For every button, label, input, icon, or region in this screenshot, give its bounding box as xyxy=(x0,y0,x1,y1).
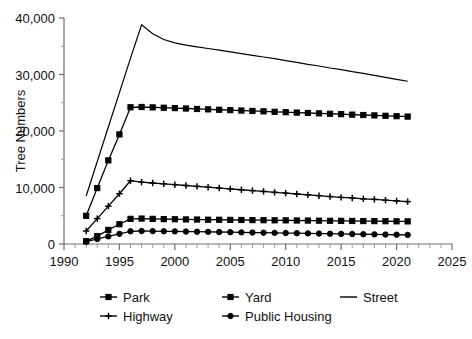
data-point xyxy=(183,217,188,222)
data-point xyxy=(272,109,277,114)
x-tick-label: 2025 xyxy=(438,254,467,269)
data-point xyxy=(106,234,111,239)
data-point xyxy=(327,111,332,116)
x-tick-label: 2020 xyxy=(382,254,411,269)
x-tick-label: 1995 xyxy=(105,254,134,269)
y-tick-label: 0 xyxy=(48,237,55,252)
legend-marker xyxy=(228,294,233,299)
data-point xyxy=(239,230,244,235)
y-axis-label: Tree Numbers xyxy=(13,89,28,172)
data-point xyxy=(128,229,133,234)
data-point xyxy=(106,158,111,163)
data-point xyxy=(294,231,299,236)
data-point xyxy=(117,231,122,236)
data-point xyxy=(305,231,310,236)
data-point xyxy=(83,239,88,244)
data-point xyxy=(272,218,277,223)
line-chart: 010,00020,00030,00040,000 19901995200020… xyxy=(0,0,472,339)
data-point xyxy=(350,112,355,117)
y-tick-label: 30,000 xyxy=(15,68,55,83)
data-point xyxy=(339,112,344,117)
data-point xyxy=(383,232,388,237)
data-point xyxy=(250,230,255,235)
x-tick-label: 2010 xyxy=(271,254,300,269)
legend-marker xyxy=(106,294,111,299)
data-point xyxy=(394,114,399,119)
data-point xyxy=(139,216,144,221)
legend-marker xyxy=(228,313,233,318)
data-point xyxy=(294,218,299,223)
data-point xyxy=(261,109,266,114)
data-point xyxy=(305,218,310,223)
data-point xyxy=(228,229,233,234)
data-point xyxy=(394,232,399,237)
x-tick-label: 2005 xyxy=(216,254,245,269)
data-point xyxy=(117,132,122,137)
data-point xyxy=(261,218,266,223)
data-point xyxy=(405,232,410,237)
data-point xyxy=(172,229,177,234)
data-point xyxy=(228,108,233,113)
data-point xyxy=(250,218,255,223)
y-tick-label: 40,000 xyxy=(15,11,55,26)
data-point xyxy=(161,217,166,222)
data-point xyxy=(361,112,366,117)
x-tick-label: 1990 xyxy=(50,254,79,269)
data-point xyxy=(150,105,155,110)
data-point xyxy=(405,219,410,224)
chart-background xyxy=(0,0,472,339)
legend-label: Yard xyxy=(245,290,272,305)
data-point xyxy=(139,228,144,233)
legend-label: Public Housing xyxy=(245,309,332,324)
data-point xyxy=(316,218,321,223)
data-point xyxy=(217,229,222,234)
data-point xyxy=(305,110,310,115)
data-point xyxy=(372,113,377,118)
data-point xyxy=(394,219,399,224)
data-point xyxy=(161,105,166,110)
data-point xyxy=(117,222,122,227)
data-point xyxy=(106,227,111,232)
data-point xyxy=(283,230,288,235)
data-point xyxy=(383,219,388,224)
legend-label: Park xyxy=(123,290,150,305)
data-point xyxy=(183,229,188,234)
data-point xyxy=(372,219,377,224)
legend-label: Street xyxy=(363,290,398,305)
data-point xyxy=(383,113,388,118)
data-point xyxy=(327,231,332,236)
data-point xyxy=(128,216,133,221)
data-point xyxy=(327,218,332,223)
data-point xyxy=(405,114,410,119)
chart-figure: 010,00020,00030,00040,000 19901995200020… xyxy=(0,0,472,339)
data-point xyxy=(372,232,377,237)
x-tick-label: 2015 xyxy=(327,254,356,269)
data-point xyxy=(183,106,188,111)
legend-label: Highway xyxy=(123,309,173,324)
data-point xyxy=(84,213,89,218)
data-point xyxy=(272,230,277,235)
data-point xyxy=(339,218,344,223)
data-point xyxy=(95,185,100,190)
data-point xyxy=(217,217,222,222)
data-point xyxy=(350,218,355,223)
data-point xyxy=(239,108,244,113)
data-point xyxy=(194,229,199,234)
data-point xyxy=(172,217,177,222)
y-tick-label: 10,000 xyxy=(15,181,55,196)
data-point xyxy=(150,216,155,221)
data-point xyxy=(95,236,100,241)
data-point xyxy=(338,231,343,236)
data-point xyxy=(239,217,244,222)
data-point xyxy=(361,232,366,237)
data-point xyxy=(283,110,288,115)
data-point xyxy=(283,218,288,223)
data-point xyxy=(206,107,211,112)
data-point xyxy=(161,229,166,234)
data-point xyxy=(206,217,211,222)
data-point xyxy=(228,217,233,222)
data-point xyxy=(217,107,222,112)
data-point xyxy=(194,106,199,111)
data-point xyxy=(294,110,299,115)
y-axis-title: Tree Numbers xyxy=(13,89,28,172)
